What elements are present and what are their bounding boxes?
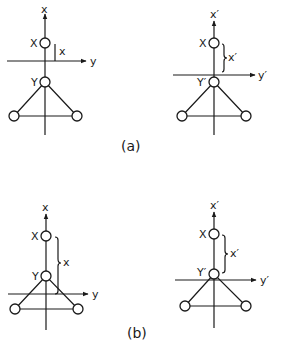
atom-y	[41, 271, 51, 281]
atom-x-label: X	[199, 228, 207, 241]
atom-x-label: X	[199, 37, 207, 50]
horizontal-axis-label: y′	[260, 274, 270, 287]
horizontal-axis-label: y	[92, 288, 99, 301]
atom-bottom-left	[180, 301, 190, 311]
horizontal-axis-label: y′	[258, 69, 268, 82]
panel-b-right: x′ y′ x′ X Y′	[175, 199, 270, 328]
vertical-axis-label: x′	[210, 8, 220, 21]
atom-x	[209, 229, 219, 239]
atom-x-label: X	[30, 37, 38, 50]
distance-label: x	[59, 45, 66, 58]
atom-bottom-right	[73, 304, 83, 314]
atom-x	[209, 38, 219, 48]
vertical-axis-label: x	[42, 201, 49, 214]
atom-y-prime	[209, 77, 219, 87]
panel-b-left: x y x X Y	[8, 201, 99, 330]
vertical-axis-label: x	[41, 3, 48, 16]
panel-a-left: x y x X Y	[7, 3, 97, 135]
atom-y-prime-label: Y′	[196, 266, 207, 279]
panel-b-caption: (b)	[127, 325, 147, 341]
atom-bottom-right	[241, 301, 251, 311]
distance-brace	[222, 235, 228, 273]
atom-y-label: Y	[31, 270, 39, 283]
panel-a-caption: (a)	[121, 138, 141, 154]
distance-label: x′	[230, 247, 240, 260]
molecular-axes-diagram: x y x X Y x′ y′ x′ X Y′ (a) x y x	[0, 0, 291, 350]
atom-x	[40, 38, 50, 48]
vertical-axis-label: x′	[210, 199, 220, 212]
atom-y-prime-label: Y′	[196, 76, 207, 89]
atom-bottom-left	[10, 304, 20, 314]
atom-y-prime	[209, 269, 219, 279]
atom-bottom-left	[177, 111, 187, 121]
atom-x-label: X	[31, 230, 39, 243]
panel-a-right: x′ y′ x′ X Y′	[173, 8, 268, 135]
atom-y-label: Y	[30, 76, 38, 89]
distance-label: x′	[228, 51, 238, 64]
distance-label: x	[63, 256, 70, 269]
horizontal-axis-label: y	[90, 55, 97, 68]
atom-x	[41, 231, 51, 241]
atom-bottom-right	[72, 111, 82, 121]
atom-bottom-left	[9, 111, 19, 121]
distance-brace	[222, 44, 227, 72]
atom-bottom-right	[241, 111, 251, 121]
atom-y	[40, 77, 50, 87]
